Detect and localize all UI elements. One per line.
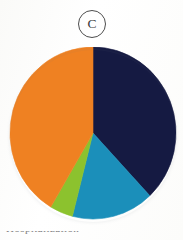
pie-slice-group	[10, 47, 176, 219]
caption-text: Hospitalization	[6, 231, 79, 234]
panel-label-text: C	[87, 17, 96, 31]
caption-cropped: Hospitalization	[0, 231, 183, 240]
pie-chart	[6, 47, 180, 225]
panel-label-badge: C	[78, 10, 106, 38]
pie-chart-svg	[6, 47, 180, 225]
